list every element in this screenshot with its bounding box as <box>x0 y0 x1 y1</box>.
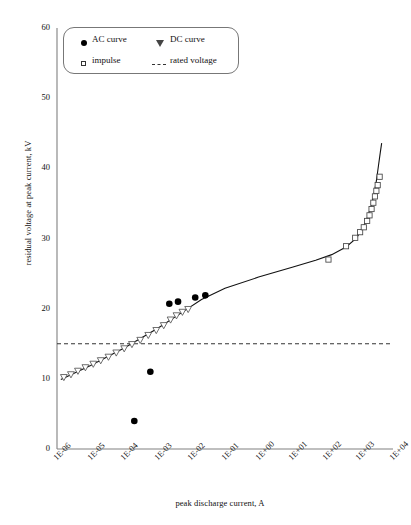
ac-curve-marker <box>202 292 209 299</box>
chart-legend: AC curve DC curve impulse rated voltage <box>63 27 239 74</box>
open-square-icon <box>81 61 86 66</box>
open-triangle-down-icon <box>156 40 164 47</box>
impulse-marker <box>326 257 331 262</box>
impulse-marker <box>365 218 370 223</box>
y-tick-label: 20 <box>28 303 50 313</box>
impulse-marker <box>374 188 379 193</box>
dc-curve-marker <box>97 358 104 364</box>
dc-curve-marker <box>90 361 97 367</box>
ac-curve-marker <box>166 300 173 307</box>
ac-curve-marker <box>175 298 182 305</box>
y-tick-label: 30 <box>28 233 50 243</box>
y-tick-label: 50 <box>28 92 50 102</box>
filled-circle-icon <box>81 40 87 46</box>
legend-label-dc-curve: DC curve <box>170 34 205 44</box>
y-tick-label: 10 <box>28 373 50 383</box>
impulse-marker <box>367 213 372 218</box>
ac-curve-marker <box>192 294 199 301</box>
dc-curve-marker <box>82 365 89 371</box>
dc-curve-marker <box>167 317 174 323</box>
legend-label-impulse: impulse <box>92 55 121 65</box>
dc-curve-marker <box>75 368 82 374</box>
impulse-marker <box>375 183 380 188</box>
dashed-line-icon <box>152 64 166 65</box>
impulse-marker <box>358 230 363 235</box>
dc-curve-marker <box>68 372 75 378</box>
legend-label-rated-voltage: rated voltage <box>170 55 217 65</box>
impulse-markers <box>326 174 382 262</box>
y-axis-title: residual voltage at peak current, kV <box>23 113 33 293</box>
impulse-marker <box>369 206 374 211</box>
x-axis-title: peak discharge current, A <box>120 498 320 508</box>
axis-lines <box>57 28 393 449</box>
y-tick-label: 60 <box>28 22 50 32</box>
impulse-marker <box>361 225 366 230</box>
y-tick-label: 0 <box>28 443 50 453</box>
y-tick-label: 40 <box>28 162 50 172</box>
dc-curve-marker <box>179 309 186 315</box>
impulse-marker <box>371 200 376 205</box>
ac-curve-markers <box>131 292 209 424</box>
ac-curve-marker <box>131 418 138 425</box>
impulse-marker <box>353 235 358 240</box>
impulse-marker <box>343 244 348 249</box>
impulse-marker <box>377 174 382 179</box>
ac-curve-marker <box>147 369 154 376</box>
legend-label-ac-curve: AC curve <box>92 34 127 44</box>
impulse-marker <box>372 194 377 199</box>
